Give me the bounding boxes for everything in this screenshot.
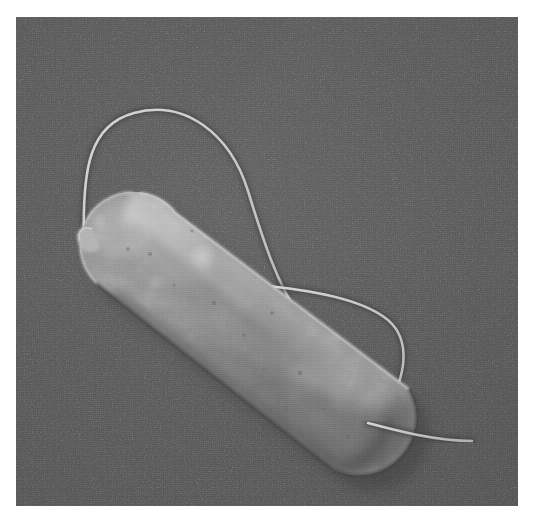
global-grain <box>16 17 518 506</box>
micrograph-page <box>0 0 538 522</box>
micrograph-canvas <box>16 17 518 506</box>
sem-micrograph <box>16 17 518 506</box>
